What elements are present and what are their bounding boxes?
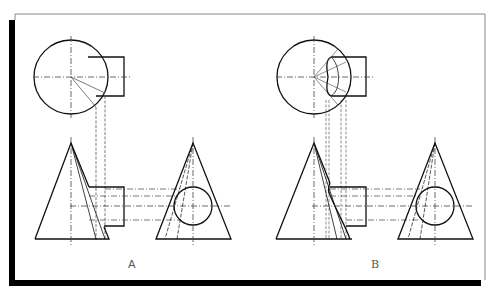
panel-b-top-view — [276, 36, 373, 240]
panel-a-side-view — [156, 137, 231, 247]
panel-a — [33, 36, 232, 247]
drawing-frame — [9, 14, 485, 286]
panel-a-front-view — [35, 137, 232, 247]
panel-b — [276, 36, 474, 247]
panel-b-front-view — [276, 137, 474, 247]
panel-b-side-view — [398, 137, 473, 247]
panel-a-top-view — [33, 36, 131, 240]
panel-b-label: B — [371, 258, 379, 271]
drawing-canvas — [0, 0, 496, 294]
panel-a-label: A — [128, 258, 136, 271]
